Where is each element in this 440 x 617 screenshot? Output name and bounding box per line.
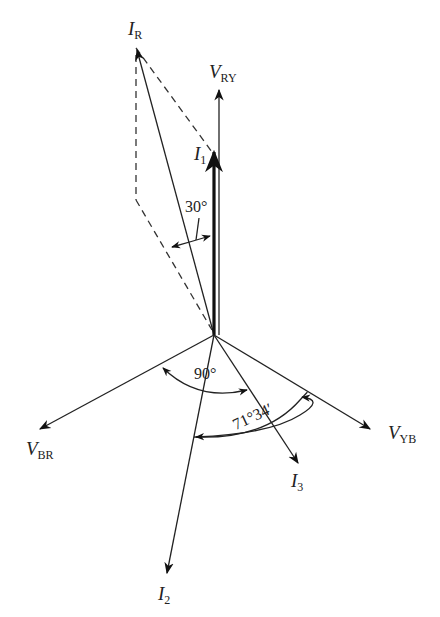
phasor-i-3 xyxy=(214,335,298,463)
phasor-i-r xyxy=(137,50,214,335)
label-i-1: I1 xyxy=(193,143,206,167)
label-v-ry: VRY xyxy=(209,61,237,85)
label-v-br: VBR xyxy=(26,438,54,462)
phasor-v-br xyxy=(40,335,214,429)
phasor-diagram: IR VRY I1 30° 90° 71°34′ VBR VYB I3 I2 xyxy=(0,0,440,617)
label-v-yb: VYB xyxy=(388,422,416,446)
label-i-3: I3 xyxy=(290,470,303,494)
label-angle-90: 90° xyxy=(194,365,216,382)
label-angle-30: 30° xyxy=(185,198,207,215)
angle-arc-30 xyxy=(172,218,210,247)
label-i-2: I2 xyxy=(157,583,170,607)
label-i-r: IR xyxy=(127,18,142,42)
